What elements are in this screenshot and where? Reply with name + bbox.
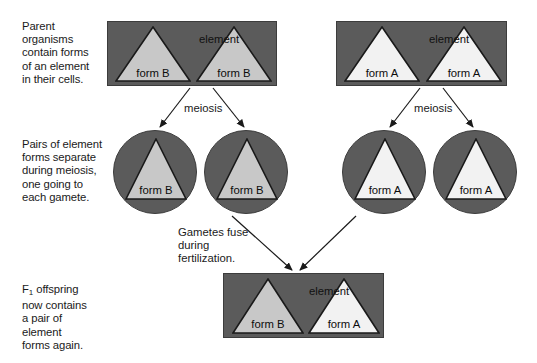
arrow-fertilization-from-a [300, 216, 356, 270]
label-form-a-g2: form A [447, 184, 505, 196]
label-form-a-p2: form A [436, 67, 492, 79]
label-form-b-p1: form B [125, 67, 181, 79]
label-form-b-f1: form B [240, 318, 296, 330]
label-form-a-p1: form A [354, 67, 410, 79]
label-form-b-g1: form B [127, 184, 185, 196]
f1-label-f: F [22, 283, 29, 295]
element-label-parent-left: element [199, 33, 239, 45]
label-meiosis-left: meiosis [184, 102, 222, 115]
element-label-parent-right: element [429, 33, 469, 45]
label-form-a-f1: form A [316, 318, 372, 330]
caption-gametes-fuse: Gametes fuse during fertilization. [178, 226, 273, 266]
f1-label-rest: offspring [33, 283, 78, 295]
label-meiosis-right: meiosis [414, 102, 452, 115]
label-form-b-p2: form B [206, 67, 262, 79]
diagram-canvas: Parent organisms contain forms of an ele… [0, 0, 537, 363]
caption-pairs-separate: Pairs of element forms separate during m… [22, 138, 122, 204]
label-form-a-g1: form A [356, 184, 414, 196]
label-form-b-g2: form B [218, 184, 276, 196]
element-label-offspring: element [309, 285, 349, 297]
caption-f1-offspring: F1 offspringnow contains a pair of eleme… [22, 283, 122, 352]
caption-parent-organisms: Parent organisms contain forms of an ele… [22, 20, 110, 86]
f1-label-tail: now contains a pair of element forms aga… [22, 299, 87, 351]
